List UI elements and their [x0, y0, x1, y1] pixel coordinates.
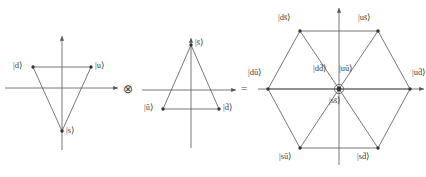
label-meson-ssbar: |ss̄⟩	[329, 96, 341, 105]
su3-weight-diagram-figure: ⊗ = |d⟩ |u⟩ |s⟩ |s̄⟩ |ū⟩ |d̄⟩ |ds̄⟩ |us…	[0, 0, 426, 177]
meson-centre-point	[337, 87, 342, 92]
label-quark-s: |s⟩	[66, 126, 75, 135]
tensor-product-operator: ⊗	[123, 82, 133, 97]
meson-vertex-udbar	[408, 87, 411, 90]
meson-nonet-group	[258, 8, 424, 165]
label-meson-udbar: |ud̄⟩	[412, 68, 426, 77]
antiquark-vertex-sbar	[189, 43, 192, 46]
meson-vertex-usbar	[376, 29, 379, 32]
quark-vertex-u	[89, 65, 92, 68]
antiquark-vertex-dbar	[217, 107, 220, 110]
label-antiquark-ubar: |ū⟩	[144, 103, 154, 112]
label-meson-sdbar: |sd̄⟩	[357, 152, 370, 161]
label-meson-ddbar: |dd̄⟩	[313, 64, 327, 73]
meson-spoke-sdbar	[339, 89, 378, 148]
meson-vertex-dubar	[266, 87, 269, 90]
meson-spoke-usbar	[339, 31, 378, 89]
quark-triplet-group	[5, 36, 118, 150]
label-antiquark-dbar: |d̄⟩	[223, 103, 233, 112]
label-meson-dsbar: |ds̄⟩	[278, 13, 291, 22]
meson-spoke-dsbar	[300, 31, 339, 89]
label-meson-dubar: |dū⟩	[248, 68, 262, 77]
label-meson-subar: |sū⟩	[279, 152, 292, 161]
antiquark-vertex-ubar	[161, 107, 164, 110]
label-quark-u: |u⟩	[95, 61, 105, 70]
label-meson-usbar: |us̄⟩	[358, 13, 371, 22]
label-meson-uubar: |uū⟩	[339, 64, 353, 73]
meson-vertex-dsbar	[298, 29, 301, 32]
label-antiquark-sbar: |s̄⟩	[195, 38, 204, 47]
equals-operator: =	[241, 82, 247, 94]
quark-vertex-s	[60, 129, 63, 132]
meson-vertex-sdbar	[376, 146, 379, 149]
antiquark-triplet-group	[142, 38, 236, 148]
label-quark-d: |d⟩	[13, 61, 23, 70]
meson-vertex-subar	[298, 146, 301, 149]
quark-vertex-d	[31, 65, 34, 68]
